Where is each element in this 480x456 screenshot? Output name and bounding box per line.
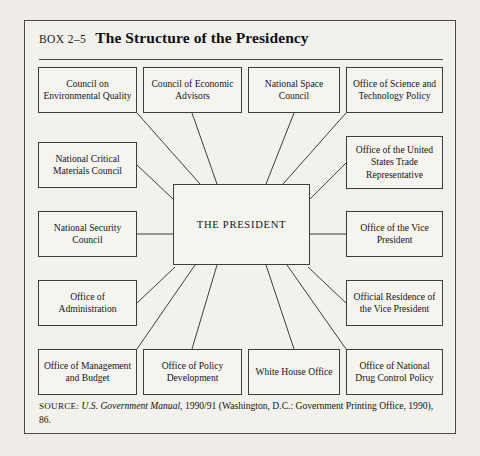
connector-official-residence-vp: [308, 267, 346, 303]
node-office-us-trade-rep: Office of the United States Trade Repres…: [346, 136, 443, 189]
node-official-residence-vp: Official Residence of the Vice President: [346, 280, 443, 326]
connector-office-national-drug-control: [287, 265, 346, 349]
connector-office-us-trade-rep: [310, 163, 346, 199]
connector-white-house-office: [266, 265, 294, 349]
box-figure: BOX 2–5 The Structure of the Presidency …: [24, 20, 456, 434]
node-label-council-economic-advisors: Council of Economic Advisors: [147, 78, 238, 103]
node-office-policy-development: Office of Policy Development: [143, 349, 242, 395]
connector-national-critical-materials: [137, 165, 173, 199]
connector-office-administration: [137, 267, 175, 303]
node-council-environmental-quality: Council on Environmental Quality: [38, 67, 137, 113]
source-prefix: SOURCE:: [39, 401, 79, 411]
node-label-president: THE PRESIDENT: [177, 218, 306, 232]
node-label-office-national-drug-control: Office of National Drug Control Policy: [350, 360, 439, 385]
connector-office-policy-development: [192, 265, 217, 349]
source-title: U.S. Government Manual,: [82, 400, 183, 411]
node-label-office-science-technology: Office of Science and Technology Policy: [350, 78, 439, 103]
node-label-office-vice-president: Office of the Vice President: [350, 222, 439, 247]
node-national-space-council: National Space Council: [248, 67, 340, 113]
connector-office-management-budget: [137, 265, 195, 349]
node-label-council-environmental-quality: Council on Environmental Quality: [42, 78, 133, 103]
node-label-office-policy-development: Office of Policy Development: [147, 360, 238, 385]
source-note: SOURCE: U.S. Government Manual, 1990/91 …: [39, 399, 445, 426]
node-label-national-critical-materials: National Critical Materials Council: [42, 153, 133, 178]
node-label-white-house-office: White House Office: [252, 366, 336, 378]
node-national-security-council: National Security Council: [38, 211, 137, 257]
node-label-office-management-budget: Office of Management and Budget: [42, 360, 133, 385]
connector-national-space-council: [266, 113, 294, 184]
node-office-management-budget: Office of Management and Budget: [38, 349, 137, 395]
node-president: THE PRESIDENT: [173, 184, 310, 265]
node-office-national-drug-control: Office of National Drug Control Policy: [346, 349, 443, 395]
connector-council-environmental-quality: [137, 113, 200, 184]
node-national-critical-materials: National Critical Materials Council: [38, 142, 137, 188]
node-label-national-space-council: National Space Council: [252, 78, 336, 103]
org-diagram: THE PRESIDENTCouncil on Environmental Qu…: [25, 21, 457, 435]
node-label-office-us-trade-rep: Office of the United States Trade Repres…: [350, 144, 439, 181]
connector-office-science-technology: [283, 113, 346, 184]
node-label-official-residence-vp: Official Residence of the Vice President: [350, 291, 439, 316]
connector-council-economic-advisors: [192, 113, 217, 184]
node-label-national-security-council: National Security Council: [42, 222, 133, 247]
node-office-science-technology: Office of Science and Technology Policy: [346, 67, 443, 113]
node-council-economic-advisors: Council of Economic Advisors: [143, 67, 242, 113]
node-white-house-office: White House Office: [248, 349, 340, 395]
node-office-administration: Office of Administration: [38, 280, 137, 326]
node-label-office-administration: Office of Administration: [42, 291, 133, 316]
node-office-vice-president: Office of the Vice President: [346, 211, 443, 257]
